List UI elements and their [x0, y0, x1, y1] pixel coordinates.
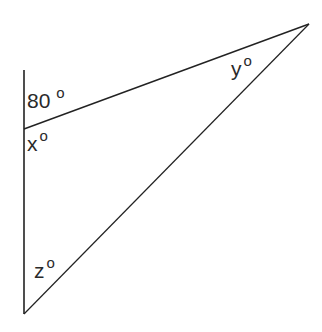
angle-z-label: zo: [34, 260, 55, 281]
hypotenuse-side: [24, 24, 309, 314]
angle-y-label: yo: [231, 58, 252, 79]
exterior-angle-label: 80o: [27, 90, 65, 111]
triangle-diagram: 80o xo yo zo: [0, 0, 322, 332]
angle-y-variable: y: [231, 57, 242, 80]
degree-symbol: o: [56, 84, 64, 101]
exterior-angle-value: 80: [27, 89, 50, 112]
angle-x-variable: x: [27, 132, 38, 155]
degree-symbol: o: [244, 52, 252, 69]
degree-symbol: o: [47, 254, 55, 271]
top-side: [24, 24, 309, 129]
triangle-figure: [0, 0, 322, 332]
angle-z-variable: z: [34, 259, 45, 282]
degree-symbol: o: [40, 127, 48, 144]
angle-x-label: xo: [27, 133, 48, 154]
